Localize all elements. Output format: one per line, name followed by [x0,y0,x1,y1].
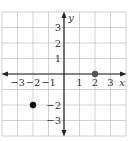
x-tick-label: 1 [76,77,82,88]
tick-labels: −3−2−1123321−2−3xy [10,12,125,126]
y-axis-label: y [67,12,74,23]
x-axis-left-arrow-icon [2,72,9,77]
y-tick-label: 2 [55,38,61,49]
x-axis-label: x [119,77,125,88]
x-tick-label: 2 [92,77,98,88]
y-tick-label: −2 [46,100,61,111]
y-tick-label: −3 [46,115,61,126]
x-tick-label: 3 [107,77,113,88]
data-point [30,102,36,108]
coordinate-plane: −3−2−1123321−2−3xy [0,0,133,141]
x-tick-label: −1 [41,77,56,88]
x-tick-label: −2 [26,77,41,88]
y-axis-down-arrow-icon [62,130,67,137]
x-axis-right-arrow-icon [120,72,127,77]
y-tick-label: 3 [55,22,61,33]
y-tick-label: 1 [55,53,61,64]
x-tick-label: −3 [10,77,25,88]
axes [2,12,127,137]
y-axis-up-arrow-icon [62,12,67,19]
data-point [92,71,98,77]
